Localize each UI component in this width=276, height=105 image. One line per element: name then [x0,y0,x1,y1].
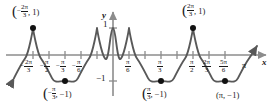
denominator: 2 [189,66,195,74]
denominator: 6 [219,66,228,74]
numerator: 2π [187,3,194,10]
point-min-right [222,78,228,84]
x-tick-label-5pi-6: 5π6 [219,59,228,74]
numerator: 2π [202,59,211,66]
x-tick-label-pi-3: π3 [157,59,163,74]
denominator: 3 [187,10,194,18]
graph-figure: x y 1 −1 −2π3 −π2 −π3 −π6 π6 π3 π2 2π3 5… [0,0,276,105]
x-tick-label-neg-2pi-3: −2π3 [20,59,33,74]
denominator: 2 [44,66,50,74]
numerator: π [189,59,195,66]
x-tick-label-pi-6: π6 [125,59,131,74]
x-tick-label-neg-pi-6: −π6 [72,59,82,74]
point-min-left [62,78,68,84]
x-tick-label-neg-pi-3: −π3 [56,59,66,74]
denominator: 3 [24,66,33,74]
y-tick-label-neg-one: −1 [96,74,106,83]
numerator: 2π [24,59,33,66]
denominator: 6 [76,66,82,74]
point-label-max-left: (−2π3, 1) [12,4,39,20]
numerator: π [157,59,163,66]
y-tick-label-one: 1 [103,20,108,29]
tail: , 1) [28,8,39,17]
point-max-left [30,25,36,31]
denominator: 6 [125,66,131,74]
numerator: π [125,59,131,66]
x-tick-label-pi-2: π2 [189,59,195,74]
denominator: 3 [60,66,66,74]
point-label-max-right: (2π3, 1) [182,3,205,19]
point-label-min-left: (−π3, −1) [43,86,72,102]
tail: , −1) [151,90,167,99]
numerator: π [44,59,50,66]
numerator: π [60,59,66,66]
numerator: 2π [21,4,28,11]
numerator: π [76,59,82,66]
denominator: 3 [157,66,163,74]
point-min-center [158,78,164,84]
point-label-min-center: (π3, −1) [142,86,167,102]
tail: , 1) [194,7,205,16]
tail: , −1) [56,90,72,99]
point-max-right [190,25,196,31]
x-tick-label-pi: π [242,62,246,70]
denominator: 3 [202,66,211,74]
point-label-min-right: (π, −1) [216,91,239,100]
denominator: 3 [21,11,28,19]
x-tick-label-neg-pi-2: −π2 [40,59,50,74]
x-tick-label-2pi-3: 2π3 [202,59,211,74]
numerator: 5π [219,59,228,66]
x-axis-label: x [262,58,267,67]
